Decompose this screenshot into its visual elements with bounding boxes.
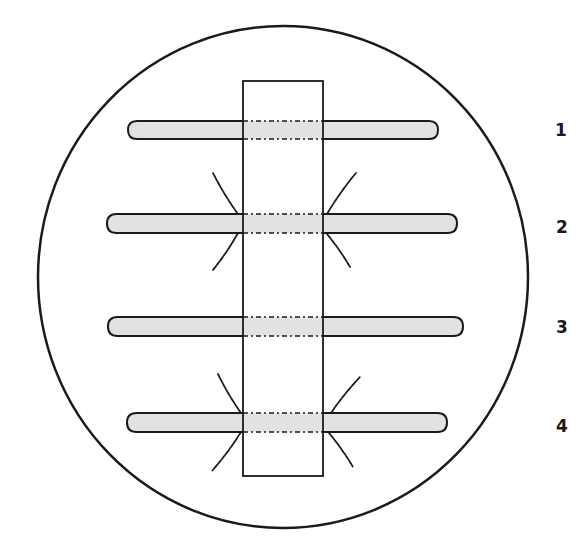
bar-4 <box>127 413 447 432</box>
diagram-canvas <box>0 0 585 538</box>
field-of-view-circle <box>38 26 528 528</box>
bars-layer <box>107 121 463 432</box>
bar-1 <box>128 121 438 139</box>
row-label-1: 1 <box>555 122 567 139</box>
row-label-4: 4 <box>556 418 568 435</box>
bar-3 <box>108 317 463 336</box>
row-label-2: 2 <box>556 219 568 236</box>
row-label-3: 3 <box>556 319 568 336</box>
bar-2 <box>107 214 457 233</box>
